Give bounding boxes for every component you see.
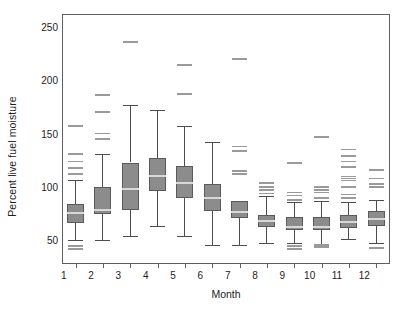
x-axis-tickmark-11 bbox=[349, 264, 350, 268]
x-axis-tick-labels: 123456789101112 bbox=[0, 0, 404, 313]
x-axis-tick-6: 6 bbox=[188, 270, 212, 281]
x-axis-tick-8: 8 bbox=[243, 270, 267, 281]
x-axis-tick-12: 12 bbox=[352, 270, 376, 281]
x-axis-tickmark-10 bbox=[322, 264, 323, 268]
box-plot-figure: Percent live fuel moisture 5010015020025… bbox=[0, 0, 404, 313]
x-axis-tickmark-2 bbox=[103, 264, 104, 268]
x-axis-tickmark-8 bbox=[267, 264, 268, 268]
x-axis-tick-10: 10 bbox=[298, 270, 322, 281]
x-axis-tickmark-5 bbox=[185, 264, 186, 268]
x-axis-tickmark-6 bbox=[212, 264, 213, 268]
x-axis-tickmark-4 bbox=[158, 264, 159, 268]
x-axis-tickmark-7 bbox=[240, 264, 241, 268]
x-axis-tickmark-12 bbox=[376, 264, 377, 268]
x-axis-tick-3: 3 bbox=[106, 270, 130, 281]
x-axis-tickmark-1 bbox=[76, 264, 77, 268]
x-axis-title: Month bbox=[62, 288, 390, 300]
x-axis-tickmark-3 bbox=[130, 264, 131, 268]
x-axis-tick-1: 1 bbox=[52, 270, 76, 281]
x-axis-tick-5: 5 bbox=[161, 270, 185, 281]
x-axis-tick-9: 9 bbox=[270, 270, 294, 281]
x-axis-tick-11: 11 bbox=[325, 270, 349, 281]
x-axis-tick-2: 2 bbox=[79, 270, 103, 281]
x-axis-tick-4: 4 bbox=[134, 270, 158, 281]
x-axis-tick-7: 7 bbox=[216, 270, 240, 281]
x-axis-tickmark-9 bbox=[294, 264, 295, 268]
